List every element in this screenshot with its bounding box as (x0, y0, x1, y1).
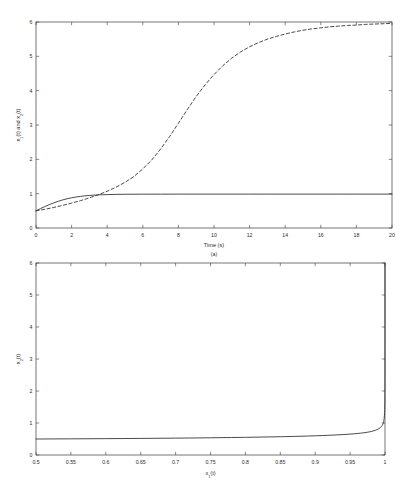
x-tick-label: 20 (389, 232, 395, 238)
y-tick-label: 1 (30, 191, 33, 197)
x-tick-label: 0.5 (32, 459, 39, 465)
y-tick-label: 5 (30, 292, 33, 298)
x-tick-label: 0 (35, 232, 38, 238)
x-tick-label: 0.6 (102, 459, 109, 465)
y-tick-label: 0 (30, 452, 33, 458)
x-tick-label: 6 (141, 232, 144, 238)
panel-a-time-series: 024681012141618200123456Time (s)(a)x1(t)… (0, 0, 409, 260)
x-tick-label: 1 (384, 459, 387, 465)
x-tick-label: 8 (177, 232, 180, 238)
y-tick-label: 4 (30, 324, 33, 330)
x-tick-label: 16 (318, 232, 324, 238)
x-tick-label: 12 (247, 232, 253, 238)
series-phase-trajectory (36, 263, 385, 439)
x-tick-label: 0.65 (136, 459, 146, 465)
panel-b-axes: 0.50.550.60.650.70.750.80.850.90.9510123… (0, 255, 409, 503)
y-tick-label: 6 (30, 19, 33, 25)
y-tick-label: 5 (30, 53, 33, 59)
y-tick-label: 6 (30, 260, 33, 266)
figure-container: 024681012141618200123456Time (s)(a)x1(t)… (0, 0, 409, 503)
x-tick-label: 2 (70, 232, 73, 238)
x-tick-label: 0.55 (66, 459, 76, 465)
panel-a-axes: 024681012141618200123456Time (s)(a)x1(t)… (0, 0, 409, 260)
x-tick-label: 0.85 (275, 459, 285, 465)
y-tick-label: 1 (30, 420, 33, 426)
x-tick-label: 0.9 (312, 459, 319, 465)
y-tick-label: 2 (30, 388, 33, 394)
series-x1-t- (36, 194, 392, 211)
y-tick-label: 3 (30, 356, 33, 362)
x-tick-label: 18 (354, 232, 360, 238)
y-tick-label: 0 (30, 225, 33, 231)
x-tick-label: 0.8 (242, 459, 249, 465)
x-tick-label: 0.75 (205, 459, 215, 465)
plot-frame (36, 22, 392, 228)
panel-a-xlabel: Time (s) (204, 242, 224, 248)
y-tick-label: 4 (30, 88, 33, 94)
panel-b-xlabel: x1(t) (205, 470, 215, 479)
y-tick-label: 2 (30, 156, 33, 162)
x-tick-label: 0.95 (345, 459, 355, 465)
panel-a-ylabel: x1(t) and x2(t) (15, 108, 24, 141)
panel-b-ylabel: x2(t) (15, 354, 24, 364)
x-tick-label: 10 (211, 232, 217, 238)
series-x2-t- (36, 23, 392, 210)
x-tick-label: 0.7 (172, 459, 179, 465)
plot-frame (36, 263, 385, 455)
panel-b-phase-plane: 0.50.550.60.650.70.750.80.850.90.9510123… (0, 255, 409, 503)
x-tick-label: 4 (106, 232, 109, 238)
y-tick-label: 3 (30, 122, 33, 128)
x-tick-label: 14 (282, 232, 288, 238)
